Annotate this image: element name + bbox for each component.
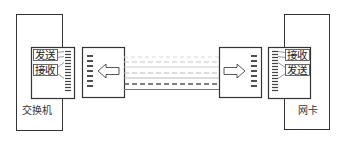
nic-label: 网卡 [298, 104, 318, 116]
nic-send-label: 发送 [287, 64, 308, 76]
switch-send-label: 发送 [35, 49, 56, 61]
switch-receive-label: 接收 [35, 64, 56, 76]
left-connector-pins [87, 56, 93, 86]
right-connector-pins [251, 56, 257, 86]
fiber-cable [124, 57, 219, 90]
fiber-connection-diagram: 发送 接收 交换机 [0, 0, 343, 142]
nic-receive-label: 接收 [287, 49, 308, 61]
switch-label: 交换机 [22, 104, 52, 116]
